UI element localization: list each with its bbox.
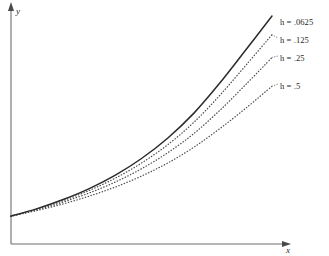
curve-h-0-5 xyxy=(11,86,272,216)
y-axis-arrowhead xyxy=(8,2,14,11)
legend-label-h-0-125: h = .125 xyxy=(280,36,309,45)
chart-figure: y x h = .0625 h = .125 h = .25 h = .5 xyxy=(0,0,329,256)
legend-label-h-0-5: h = .5 xyxy=(280,82,300,91)
leader-line-h-0-125 xyxy=(272,35,278,38)
leader-line-h-0-5 xyxy=(272,84,278,86)
legend-label-h-0-0625: h = .0625 xyxy=(280,18,313,27)
curve-h-0-125 xyxy=(11,35,272,216)
x-axis-label: x xyxy=(286,246,290,255)
leader-line-h-0-25 xyxy=(272,56,278,58)
curve-h-0-0625 xyxy=(11,16,272,216)
legend-label-h-0-25: h = .25 xyxy=(280,54,305,63)
curve-h-0-25 xyxy=(11,58,272,217)
y-axis-label: y xyxy=(16,7,20,16)
